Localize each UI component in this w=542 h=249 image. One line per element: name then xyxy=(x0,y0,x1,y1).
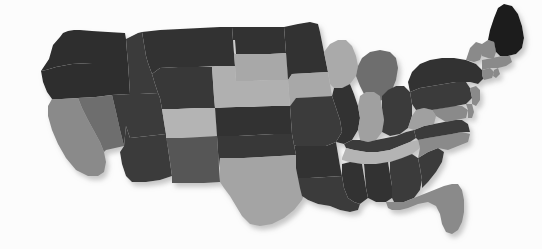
state-sd[interactable]: South Dakota xyxy=(234,53,288,81)
state-nm[interactable]: New Mexico xyxy=(166,136,220,183)
state-co[interactable]: Colorado xyxy=(162,108,217,138)
state-ar[interactable]: Arkansas xyxy=(294,142,342,178)
state-ks[interactable]: Kansas xyxy=(215,106,292,136)
state-al[interactable]: Alabama xyxy=(364,162,392,202)
state-nh[interactable]: New Hampshire xyxy=(482,40,496,58)
us-map-svg: WashingtonOregonCaliforniaNevadaIdahoMon… xyxy=(0,0,542,249)
state-wy[interactable]: Wyoming xyxy=(152,67,215,109)
state-mo[interactable]: Missouri xyxy=(290,96,342,146)
state-in[interactable]: Indiana xyxy=(358,92,384,142)
choropleth-map-figure: WashingtonOregonCaliforniaNevadaIdahoMon… xyxy=(0,0,542,249)
state-or[interactable]: Oregon xyxy=(41,63,130,99)
state-nd[interactable]: North Dakota xyxy=(232,27,286,54)
